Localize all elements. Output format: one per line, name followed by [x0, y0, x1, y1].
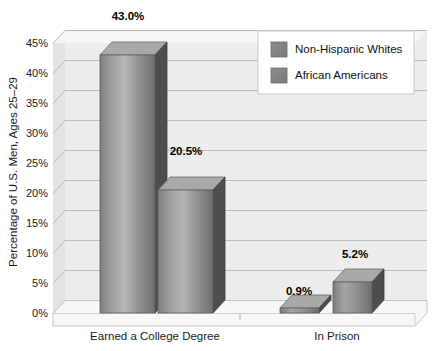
y-axis-ticks: 0% 5% 10% 15% 20% 25% 30% 35% 40% 45% [26, 37, 48, 319]
y-axis-title: Percentage of U.S. Men, Ages 25–29 [7, 77, 19, 267]
y-tick-2: 10% [26, 247, 48, 259]
legend: Non-Hispanic Whites African Americans [258, 31, 414, 94]
bar-label-degree-black: 20.5% [170, 145, 203, 157]
legend-swatch-non-hispanic-whites [271, 42, 287, 57]
bar-label-prison-black: 5.2% [342, 248, 368, 260]
x-label-in-prison: In Prison [314, 330, 359, 342]
bar-prison-black[interactable] [333, 269, 384, 313]
chart-canvas: 0% 5% 10% 15% 20% 25% 30% 35% 40% 45% Pe… [0, 0, 443, 351]
bar-label-prison-white: 0.9% [286, 285, 312, 297]
legend-label-african-americans: African Americans [295, 69, 388, 81]
legend-swatch-african-americans [271, 68, 287, 83]
bar-degree-black[interactable] [158, 177, 225, 313]
y-tick-7: 35% [26, 97, 48, 109]
y-tick-8: 40% [26, 67, 48, 79]
y-tick-6: 30% [26, 127, 48, 139]
y-tick-1: 5% [32, 277, 48, 289]
y-tick-3: 15% [26, 217, 48, 229]
y-tick-9: 45% [26, 37, 48, 49]
legend-label-non-hispanic-whites: Non-Hispanic Whites [295, 43, 403, 55]
x-label-earned-a-college-degree: Earned a College Degree [90, 330, 220, 342]
y-tick-0: 0% [32, 307, 48, 319]
bar-degree-white[interactable] [100, 42, 167, 313]
bar-chart: 0% 5% 10% 15% 20% 25% 30% 35% 40% 45% Pe… [0, 0, 443, 351]
y-tick-4: 20% [26, 187, 48, 199]
y-tick-5: 25% [26, 157, 48, 169]
bar-label-degree-white: 43.0% [112, 10, 145, 22]
